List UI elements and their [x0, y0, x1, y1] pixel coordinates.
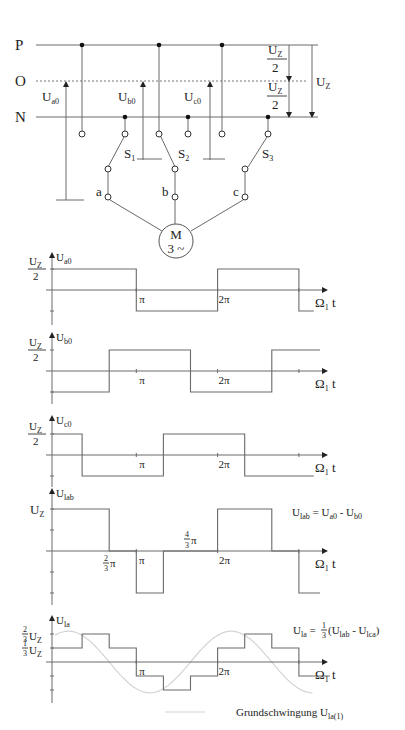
terminal-a-label: a: [96, 184, 102, 199]
svg-text:UZ: UZ: [268, 79, 282, 96]
contact-b-n: [185, 131, 191, 137]
uz-half-top-label: UZ 2: [267, 42, 287, 75]
uz-full-label: UZ: [316, 74, 330, 91]
uz-half-bottom-label: UZ 2: [267, 79, 287, 112]
svg-text:π: π: [110, 557, 116, 569]
x-tick-2pi: 2π: [219, 665, 231, 677]
ula-equation: Ula =13 (Ulab - Ulca): [293, 621, 380, 640]
rail-label-o: O: [15, 73, 26, 89]
svg-text:Ula: Ula: [56, 614, 70, 629]
x-tick-2pi: 2π: [219, 374, 231, 386]
terminal-c: [242, 194, 248, 200]
x-axis-label: Ω1 t: [315, 667, 336, 684]
svg-text:2: 2: [23, 625, 27, 634]
ua0-label: Ua0: [42, 89, 59, 106]
motor-wire-c: [191, 200, 243, 231]
svg-text:3: 3: [185, 541, 189, 550]
svg-text:3: 3: [104, 564, 108, 573]
svg-text:3: 3: [23, 649, 27, 658]
svg-text:Uc0: Uc0: [56, 414, 72, 429]
contact-c-p: [219, 131, 225, 137]
x-axis-label: Ω1 t: [315, 295, 336, 312]
svg-text:UZ: UZ: [29, 420, 42, 435]
switch-s2-label: S2: [178, 146, 189, 163]
node-p-a: [80, 43, 85, 48]
ub0-label: Ub0: [118, 89, 135, 106]
circuit: P O N Ua0 Ub0 Uc0: [15, 37, 330, 258]
legend-fundamental: Grundschwingung Ula(1): [236, 706, 343, 721]
node-n-c: [266, 115, 271, 120]
svg-text:UZ: UZ: [29, 644, 42, 659]
x-tick-pi: π: [139, 554, 145, 566]
switch-s3-label: S3: [262, 146, 273, 163]
rail-label-n: N: [15, 109, 26, 125]
svg-text:2: 2: [104, 554, 108, 563]
switch-s2-pivot: [172, 166, 178, 172]
svg-text:UZ: UZ: [29, 336, 42, 351]
svg-text:UZ: UZ: [29, 630, 42, 645]
switch-s1-label: S1: [124, 146, 135, 163]
contact-b-p: [156, 131, 162, 137]
svg-text:Ula =: Ula =: [293, 624, 316, 639]
switch-s1-blade: [108, 137, 124, 167]
uc0-label: Uc0: [184, 89, 201, 106]
terminal-c-label: c: [233, 184, 239, 199]
ulab-equation: Ulab = Ua0 - Ub0: [292, 506, 362, 521]
x-tick-2-3-pi: 23π: [103, 554, 116, 573]
x-tick-pi: π: [139, 665, 145, 677]
x-tick-pi: π: [139, 374, 145, 386]
x-tick-pi: π: [139, 458, 145, 470]
svg-text:Ub0: Ub0: [56, 331, 72, 346]
x-tick-2pi: 2π: [219, 458, 231, 470]
contact-a-p: [79, 131, 85, 137]
motor-wire-a: [110, 200, 162, 231]
contact-c-n: [265, 131, 271, 137]
svg-text:Ua0: Ua0: [56, 251, 72, 266]
svg-text:Ulab: Ulab: [56, 487, 74, 502]
x-tick-4-3-pi: 43π: [184, 530, 197, 550]
rail-label-p: P: [15, 37, 23, 53]
node-p-b: [157, 43, 162, 48]
chart-uc0: Uc0UZ2π2πΩ1 t: [28, 414, 336, 487]
switch-s1-pivot: [105, 166, 111, 172]
x-axis-label: Ω1 t: [315, 460, 336, 477]
chart-ulab: UlabUZ23ππ43π2πΩ1 tUlab = Ua0 - Ub0: [30, 487, 362, 605]
svg-text:2: 2: [272, 97, 279, 112]
waveform-charts: Ua0UZ2π2πΩ1 tUb0UZ2π2πΩ1 tUc0UZ2π2πΩ1 tU…: [22, 251, 380, 721]
chart-ua0: Ua0UZ2π2πΩ1 t: [28, 251, 336, 325]
fraction-label: UZ2: [28, 255, 46, 282]
terminal-a: [105, 194, 111, 200]
switch-s2-blade: [161, 137, 175, 167]
chart-ub0: Ub0UZ2π2πΩ1 t: [28, 331, 336, 404]
svg-text:2: 2: [272, 60, 279, 75]
motor-label-m: M: [170, 227, 182, 242]
node-p-c: [220, 43, 225, 48]
svg-text:2: 2: [33, 351, 39, 363]
svg-text:2: 2: [33, 270, 39, 282]
x-tick-2pi: 2π: [219, 293, 231, 305]
inverter-diagram: P O N Ua0 Ub0 Uc0: [0, 0, 405, 730]
chart-ula: Ula23UZ13UZπ2πΩ1 tUla =13 (Ulab - Ulca)G…: [22, 614, 380, 721]
contact-a-n: [122, 131, 128, 137]
switch-s3-pivot: [242, 166, 248, 172]
node-n-b: [186, 115, 191, 120]
fraction-label: UZ2: [28, 420, 46, 447]
terminal-b-label: b: [162, 184, 169, 199]
svg-text:UZ: UZ: [30, 502, 44, 519]
svg-text:3: 3: [322, 631, 326, 640]
fraction-label: UZ2: [28, 336, 46, 363]
svg-text:4: 4: [185, 530, 189, 539]
svg-text:2: 2: [33, 435, 39, 447]
svg-text:UZ: UZ: [29, 255, 42, 270]
terminal-b: [172, 194, 178, 200]
svg-text:1: 1: [322, 621, 326, 630]
svg-text:1: 1: [23, 639, 27, 648]
svg-text:(Ulab - Ulca): (Ulab - Ulca): [328, 624, 380, 639]
node-n-a: [123, 115, 128, 120]
svg-text:π: π: [191, 534, 197, 546]
x-tick-2pi: 2π: [219, 554, 231, 566]
x-axis-label: Ω1 t: [315, 376, 336, 393]
x-tick-pi: π: [139, 293, 145, 305]
motor-label-phases: 3 ~: [168, 241, 185, 256]
x-axis-label: Ω1 t: [315, 556, 336, 573]
